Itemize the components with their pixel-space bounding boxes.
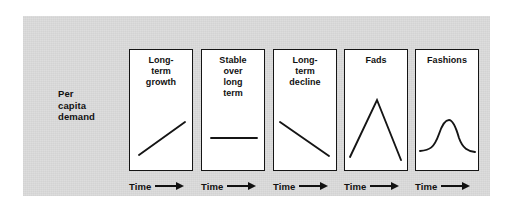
plot-flat-horizontal-line <box>202 50 266 172</box>
x-axis-5: Time <box>415 177 485 195</box>
plot-smooth-bell-curve <box>416 50 480 172</box>
y-axis-label-line-3: demand <box>58 111 122 123</box>
panel-fashions: Fashions Time <box>415 49 479 204</box>
right-arrow-icon <box>441 182 471 191</box>
x-axis-label: Time <box>201 181 223 192</box>
x-axis-4: Time <box>344 177 414 195</box>
y-axis-label-line-1: Per <box>58 88 122 100</box>
plot-sharp-peak <box>345 50 409 172</box>
plot-falling-straight-line <box>274 50 338 172</box>
right-arrow-icon <box>370 182 400 191</box>
panel-fads: Fads Time <box>344 49 408 204</box>
panel-box: Fashions <box>415 49 479 171</box>
right-arrow-icon <box>299 182 329 191</box>
figure-plate: Per capita demand Long- term growth Time <box>23 16 490 196</box>
panel-stable-over-long-term: Stable over long term Time <box>201 49 265 204</box>
panel-box: Stable over long term <box>201 49 265 171</box>
panel-row: Long- term growth Time Stable <box>129 49 479 204</box>
x-axis-2: Time <box>201 177 271 195</box>
panel-box: Long- term decline <box>273 49 337 171</box>
x-axis-label: Time <box>129 181 151 192</box>
x-axis-label: Time <box>415 181 437 192</box>
x-axis-1: Time <box>129 177 199 195</box>
x-axis-3: Time <box>273 177 343 195</box>
panel-long-term-decline: Long- term decline Time <box>273 49 337 204</box>
plot-rising-straight-line <box>130 50 194 172</box>
panel-long-term-growth: Long- term growth Time <box>129 49 193 204</box>
y-axis-label-line-2: capita <box>58 100 122 112</box>
y-axis-label: Per capita demand <box>58 88 122 123</box>
right-arrow-icon <box>155 182 185 191</box>
x-axis-label: Time <box>344 181 366 192</box>
panel-box: Fads <box>344 49 408 171</box>
right-arrow-icon <box>227 182 257 191</box>
x-axis-label: Time <box>273 181 295 192</box>
panel-box: Long- term growth <box>129 49 193 171</box>
